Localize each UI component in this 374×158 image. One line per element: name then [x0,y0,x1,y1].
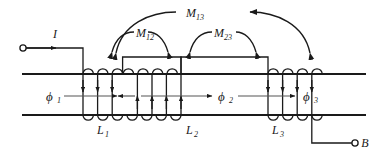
svg-text:1: 1 [57,96,61,105]
svg-text:12: 12 [146,33,154,42]
M13-arc-right [250,12,310,53]
core-rails [22,74,366,115]
output-terminal-node [352,140,358,146]
svg-text:L: L [185,123,193,137]
coil-L3-label: L 3 [271,123,284,139]
M13-label: M 13 [185,6,204,22]
M23-arc-left [190,32,212,52]
input-terminal-node [20,45,26,51]
output-wire-from-L3 [312,115,352,143]
coil-L2 [123,69,181,120]
coil-L1-label: L 1 [96,123,109,139]
flux-phi1-label: ϕ 1 [46,89,61,105]
input-wire-to-L1 [26,48,83,74]
input-lead [20,45,83,74]
coil-L1 [83,69,123,120]
svg-text:ϕ: ϕ [303,89,310,104]
svg-text:2: 2 [229,96,233,105]
jumper-L1-to-L2 [123,57,181,74]
flux-phi3-label: ϕ 3 [303,89,318,105]
svg-text:ϕ: ϕ [218,89,225,104]
flux-phi2-label: ϕ 2 [218,89,233,105]
svg-text:23: 23 [224,33,232,42]
circuit-drawing: I B M 13 M 12 M 23 ϕ 1 ϕ 2 ϕ 3 L [0,0,374,158]
coil-L3 [268,69,322,120]
svg-text:1: 1 [105,130,109,139]
magnetic-circuit-figure: I B M 13 M 12 M 23 ϕ 1 ϕ 2 ϕ 3 L [0,0,374,158]
svg-text:ϕ: ϕ [46,89,53,104]
M23-arc-right [236,32,256,52]
svg-text:2: 2 [194,130,198,139]
M12-arc-left [112,32,134,52]
svg-text:L: L [96,123,104,137]
svg-text:13: 13 [196,13,204,22]
svg-text:L: L [271,123,279,137]
jumper-L2-to-L3 [181,57,268,74]
svg-text:3: 3 [313,96,318,105]
M12-label: M 12 [135,26,154,42]
svg-text:3: 3 [279,130,284,139]
coil-L2-label: L 2 [185,123,198,139]
current-label: I [52,27,58,41]
output-terminal-label: B [361,136,369,150]
M23-label: M 23 [213,26,232,42]
